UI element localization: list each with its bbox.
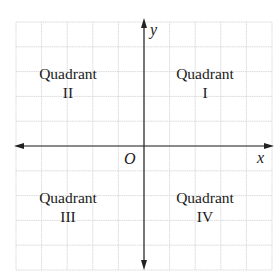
quadrant-i-label: Quadrant I xyxy=(176,65,234,101)
quadrant-ii-word: Quadrant xyxy=(39,65,97,82)
x-axis-left-arrow-icon xyxy=(14,143,24,149)
origin-label: O xyxy=(124,150,136,167)
quadrant-i-numeral: I xyxy=(202,84,207,101)
quadrant-iii-word: Quadrant xyxy=(39,189,97,206)
quadrant-iv-numeral: IV xyxy=(197,208,214,225)
quadrant-ii-numeral: II xyxy=(63,84,73,101)
quadrant-ii-label: Quadrant II xyxy=(39,65,97,101)
quadrant-i-word: Quadrant xyxy=(176,65,234,82)
quadrant-iv-word: Quadrant xyxy=(176,189,234,206)
x-axis-right-arrow-icon xyxy=(264,143,274,149)
y-axis-label: y xyxy=(148,21,158,39)
coordinate-plane: y x O Quadrant II Quadrant I Quadrant II… xyxy=(0,0,279,280)
quadrant-iii-numeral: III xyxy=(60,208,76,225)
y-axis-down-arrow-icon xyxy=(141,260,147,270)
quadrant-iv-label: Quadrant IV xyxy=(176,189,234,225)
x-axis-label: x xyxy=(256,149,264,166)
y-axis-up-arrow-icon xyxy=(141,18,147,28)
quadrant-iii-label: Quadrant III xyxy=(39,189,97,225)
